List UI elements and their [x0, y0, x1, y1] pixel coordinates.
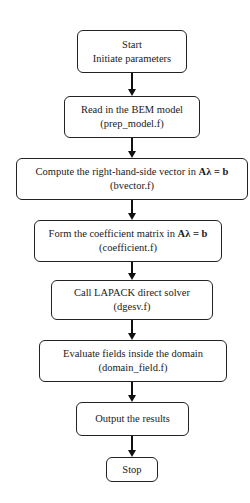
form-matrix-file: (coefficient.f)	[99, 241, 157, 255]
form-matrix-box: Form the coefficient matrix in Aλ = b (c…	[34, 220, 222, 262]
evaluate-fields-label: Evaluate fields inside the domain	[63, 347, 203, 361]
output-results-label: Output the results	[95, 412, 170, 426]
start-label: Start	[122, 38, 142, 52]
compute-rhs-text: Compute the right-hand-side vector in	[36, 166, 199, 177]
compute-rhs-box: Compute the right-hand-side vector in Aλ…	[16, 158, 248, 200]
compute-rhs-file: (bvector.f)	[110, 179, 154, 193]
evaluate-fields-file: (domain_field.f)	[98, 361, 167, 375]
equation: Aλ = b	[178, 228, 208, 239]
output-results-box: Output the results	[76, 402, 189, 436]
read-model-box: Read in the BEM model (prep_model.f)	[64, 96, 200, 138]
evaluate-fields-box: Evaluate fields inside the domain (domai…	[39, 340, 227, 382]
read-model-label: Read in the BEM model	[81, 103, 183, 117]
form-matrix-text: Form the coefficient matrix in	[49, 228, 178, 239]
start-box: Start Initiate parameters	[77, 30, 187, 73]
compute-rhs-label: Compute the right-hand-side vector in Aλ…	[36, 165, 229, 179]
stop-box: Stop	[106, 457, 158, 482]
lapack-solver-box: Call LAPACK direct solver (dgesv.f)	[51, 280, 213, 320]
start-sublabel: Initiate parameters	[93, 52, 171, 66]
stop-label: Stop	[122, 463, 141, 477]
form-matrix-label: Form the coefficient matrix in Aλ = b	[49, 227, 208, 241]
equation: Aλ = b	[199, 166, 229, 177]
lapack-solver-label: Call LAPACK direct solver	[74, 286, 190, 300]
read-model-file: (prep_model.f)	[100, 117, 163, 131]
lapack-solver-file: (dgesv.f)	[114, 300, 151, 314]
